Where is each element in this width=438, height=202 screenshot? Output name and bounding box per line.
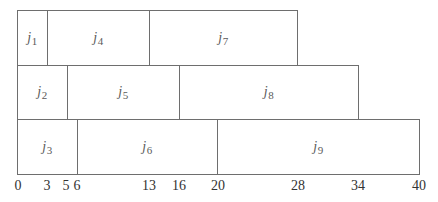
job-label-j8: j8 [264, 84, 274, 101]
job-label-j5: j5 [118, 84, 128, 101]
tick-label-34: 34 [351, 178, 365, 194]
job-block-j3: j3 [17, 119, 78, 175]
tick-label-20: 20 [211, 178, 225, 194]
tick-label-13: 13 [142, 178, 156, 194]
job-block-j8: j8 [179, 65, 359, 120]
job-block-j2: j2 [17, 65, 68, 120]
tick-label-0: 0 [15, 178, 22, 194]
job-label-j3: j3 [42, 139, 52, 156]
job-label-j1: j1 [27, 30, 37, 47]
gantt-diagram: j1 j4 j7 j2 j5 j8 j3 j6 j9 0 3 5 6 13 16… [0, 0, 438, 202]
job-block-j5: j5 [67, 65, 180, 120]
job-block-j7: j7 [149, 10, 298, 66]
job-label-j4: j4 [93, 30, 103, 47]
tick-label-40: 40 [412, 178, 426, 194]
job-label-j2: j2 [37, 84, 47, 101]
tick-label-5: 5 [63, 178, 70, 194]
job-label-j9: j9 [313, 139, 323, 156]
job-label-j7: j7 [218, 30, 228, 47]
job-block-j4: j4 [47, 10, 150, 66]
tick-label-16: 16 [172, 178, 186, 194]
job-label-j6: j6 [142, 139, 152, 156]
tick-label-6: 6 [74, 178, 81, 194]
job-block-j9: j9 [217, 119, 420, 175]
job-block-j1: j1 [17, 10, 48, 66]
job-block-j6: j6 [77, 119, 218, 175]
tick-label-3: 3 [44, 178, 51, 194]
tick-label-28: 28 [291, 178, 305, 194]
